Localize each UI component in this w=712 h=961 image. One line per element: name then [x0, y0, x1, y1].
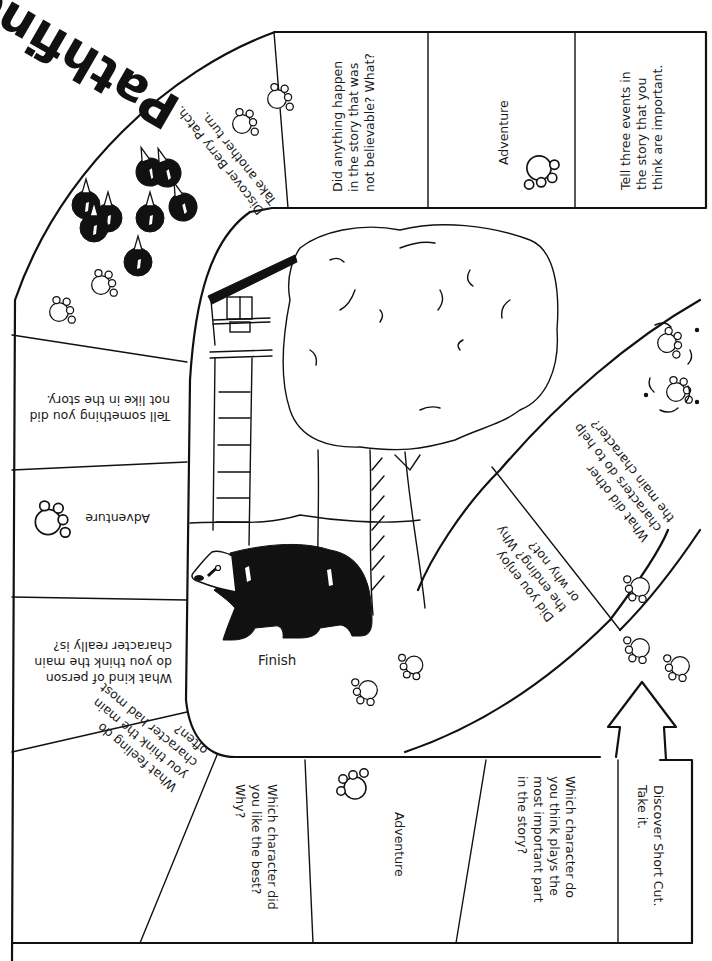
space-short-cut: Discover Short Cut. Take it.: [634, 785, 666, 906]
finish-label: Finish: [258, 652, 296, 668]
illustration: [190, 225, 558, 640]
space-adventure-3: Adventure: [496, 100, 512, 165]
space-not-believable: Did anything happen in the story that wa…: [330, 53, 378, 192]
space-three-events: Tell three events in the story that you …: [618, 65, 666, 190]
space-adventure-2: Adventure: [85, 510, 150, 526]
shortcut-arrow: [608, 682, 676, 760]
berries-icon: [72, 143, 201, 276]
space-adventure-1: Adventure: [391, 812, 407, 877]
space-like-best: Which character did you like the best? W…: [232, 784, 280, 910]
space-important-character: Which character do you think plays the m…: [514, 776, 578, 903]
space-did-not-like: Tell something you did not like in the s…: [29, 392, 170, 424]
space-kind-of-person: What kind of person do you think the mai…: [34, 638, 172, 686]
